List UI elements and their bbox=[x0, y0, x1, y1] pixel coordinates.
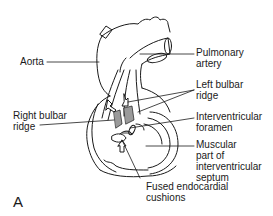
label-aorta: Aorta bbox=[20, 56, 44, 67]
heart-drawing bbox=[0, 0, 273, 216]
label-muscular-septum-line2: part of bbox=[196, 150, 224, 161]
label-interventricular-foramen-line1: Interventricular bbox=[196, 111, 262, 122]
label-pulmonary-artery-line1: Pulmonary bbox=[196, 47, 244, 58]
label-pulmonary-artery-line2: artery bbox=[196, 58, 222, 69]
label-muscular-septum-line3: interventricular bbox=[196, 161, 262, 172]
label-right-bulbar-ridge-line1: Right bulbar bbox=[13, 110, 67, 121]
label-muscular-septum-line1: Muscular bbox=[196, 139, 237, 150]
label-fused-endocardial-cushions-line2: cushions bbox=[146, 192, 185, 203]
heart-diagram: Aorta Pulmonary artery Left bulbar ridge… bbox=[0, 0, 273, 216]
label-fused-endocardial-cushions-line1: Fused endocardial bbox=[146, 181, 228, 192]
label-left-bulbar-ridge-line1: Left bulbar bbox=[196, 79, 243, 90]
label-interventricular-foramen-line2: foramen bbox=[196, 122, 233, 133]
label-left-bulbar-ridge-line2: ridge bbox=[196, 90, 218, 101]
label-right-bulbar-ridge-line2: ridge bbox=[13, 121, 35, 132]
panel-letter: A bbox=[13, 193, 23, 210]
